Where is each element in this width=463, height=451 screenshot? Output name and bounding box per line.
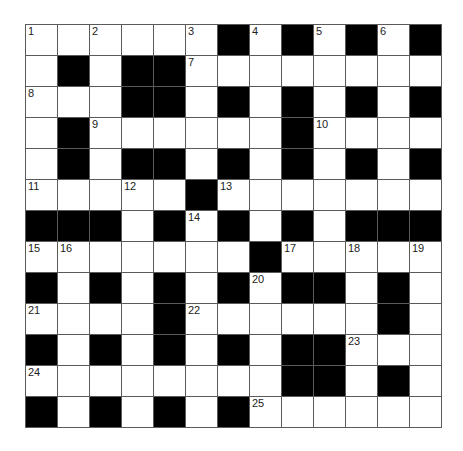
- answer-cell[interactable]: [186, 397, 217, 427]
- answer-cell[interactable]: 17: [282, 242, 313, 272]
- answer-cell[interactable]: [250, 211, 281, 241]
- answer-cell[interactable]: [282, 56, 313, 86]
- answer-cell[interactable]: [282, 397, 313, 427]
- answer-cell[interactable]: [122, 397, 153, 427]
- answer-cell[interactable]: [218, 56, 249, 86]
- answer-cell[interactable]: 20: [250, 273, 281, 303]
- answer-cell[interactable]: 24: [26, 366, 57, 396]
- answer-cell[interactable]: [154, 25, 185, 55]
- answer-cell[interactable]: 13: [218, 180, 249, 210]
- answer-cell[interactable]: [378, 397, 409, 427]
- answer-cell[interactable]: [186, 149, 217, 179]
- answer-cell[interactable]: 23: [346, 335, 377, 365]
- answer-cell[interactable]: [122, 304, 153, 334]
- answer-cell[interactable]: [410, 366, 441, 396]
- answer-cell[interactable]: 6: [378, 25, 409, 55]
- answer-cell[interactable]: [250, 87, 281, 117]
- answer-cell[interactable]: [314, 56, 345, 86]
- answer-cell[interactable]: [186, 366, 217, 396]
- answer-cell[interactable]: [90, 56, 121, 86]
- answer-cell[interactable]: [378, 118, 409, 148]
- answer-cell[interactable]: [58, 366, 89, 396]
- answer-cell[interactable]: [410, 273, 441, 303]
- answer-cell[interactable]: [282, 180, 313, 210]
- answer-cell[interactable]: [186, 335, 217, 365]
- answer-cell[interactable]: [26, 56, 57, 86]
- answer-cell[interactable]: 18: [346, 242, 377, 272]
- answer-cell[interactable]: [410, 180, 441, 210]
- answer-cell[interactable]: [410, 304, 441, 334]
- answer-cell[interactable]: [122, 25, 153, 55]
- answer-cell[interactable]: [218, 304, 249, 334]
- answer-cell[interactable]: [378, 87, 409, 117]
- answer-cell[interactable]: [346, 273, 377, 303]
- answer-cell[interactable]: [186, 242, 217, 272]
- answer-cell[interactable]: 16: [58, 242, 89, 272]
- answer-cell[interactable]: 1: [26, 25, 57, 55]
- answer-cell[interactable]: [122, 242, 153, 272]
- answer-cell[interactable]: [314, 397, 345, 427]
- answer-cell[interactable]: [90, 366, 121, 396]
- answer-cell[interactable]: [346, 180, 377, 210]
- answer-cell[interactable]: 8: [26, 87, 57, 117]
- answer-cell[interactable]: 4: [250, 25, 281, 55]
- answer-cell[interactable]: [58, 180, 89, 210]
- answer-cell[interactable]: [314, 149, 345, 179]
- answer-cell[interactable]: 22: [186, 304, 217, 334]
- answer-cell[interactable]: 3: [186, 25, 217, 55]
- answer-cell[interactable]: 10: [314, 118, 345, 148]
- answer-cell[interactable]: [410, 56, 441, 86]
- answer-cell[interactable]: 11: [26, 180, 57, 210]
- answer-cell[interactable]: [90, 149, 121, 179]
- answer-cell[interactable]: [154, 118, 185, 148]
- answer-cell[interactable]: 14: [186, 211, 217, 241]
- answer-cell[interactable]: [90, 304, 121, 334]
- answer-cell[interactable]: [90, 242, 121, 272]
- answer-cell[interactable]: [410, 118, 441, 148]
- answer-cell[interactable]: [90, 180, 121, 210]
- answer-cell[interactable]: 2: [90, 25, 121, 55]
- answer-cell[interactable]: [58, 397, 89, 427]
- answer-cell[interactable]: [122, 335, 153, 365]
- answer-cell[interactable]: [58, 25, 89, 55]
- answer-cell[interactable]: 9: [90, 118, 121, 148]
- answer-cell[interactable]: [58, 304, 89, 334]
- answer-cell[interactable]: [346, 118, 377, 148]
- answer-cell[interactable]: [154, 242, 185, 272]
- answer-cell[interactable]: [314, 304, 345, 334]
- answer-cell[interactable]: [186, 118, 217, 148]
- answer-cell[interactable]: [26, 149, 57, 179]
- answer-cell[interactable]: [154, 180, 185, 210]
- answer-cell[interactable]: [218, 242, 249, 272]
- answer-cell[interactable]: 25: [250, 397, 281, 427]
- answer-cell[interactable]: [250, 56, 281, 86]
- answer-cell[interactable]: [250, 118, 281, 148]
- answer-cell[interactable]: [218, 366, 249, 396]
- answer-cell[interactable]: [346, 366, 377, 396]
- answer-cell[interactable]: [250, 149, 281, 179]
- answer-cell[interactable]: [250, 180, 281, 210]
- answer-cell[interactable]: [122, 273, 153, 303]
- answer-cell[interactable]: [378, 56, 409, 86]
- answer-cell[interactable]: [314, 211, 345, 241]
- answer-cell[interactable]: [378, 335, 409, 365]
- answer-cell[interactable]: [58, 273, 89, 303]
- answer-cell[interactable]: 5: [314, 25, 345, 55]
- answer-cell[interactable]: [346, 397, 377, 427]
- answer-cell[interactable]: [26, 118, 57, 148]
- answer-cell[interactable]: [314, 87, 345, 117]
- answer-cell[interactable]: [378, 242, 409, 272]
- answer-cell[interactable]: [410, 397, 441, 427]
- answer-cell[interactable]: [282, 304, 313, 334]
- answer-cell[interactable]: [346, 304, 377, 334]
- answer-cell[interactable]: 12: [122, 180, 153, 210]
- answer-cell[interactable]: 19: [410, 242, 441, 272]
- answer-cell[interactable]: [346, 56, 377, 86]
- answer-cell[interactable]: [154, 366, 185, 396]
- answer-cell[interactable]: [314, 180, 345, 210]
- answer-cell[interactable]: [58, 335, 89, 365]
- answer-cell[interactable]: [218, 118, 249, 148]
- answer-cell[interactable]: [314, 242, 345, 272]
- answer-cell[interactable]: 21: [26, 304, 57, 334]
- answer-cell[interactable]: [250, 304, 281, 334]
